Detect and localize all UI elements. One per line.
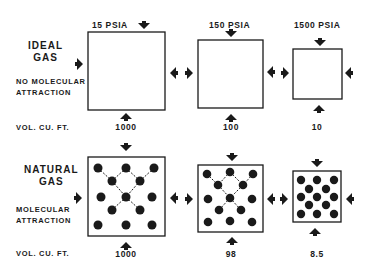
arrow-down-icon — [311, 159, 323, 167]
arrow-right-icon — [281, 67, 289, 79]
arrow-right-icon — [74, 192, 82, 204]
arrow-up-icon — [226, 237, 238, 245]
arrow-down-icon — [120, 143, 132, 151]
natural-box-1500psia — [280, 159, 354, 236]
gas-compression-diagram — [0, 0, 367, 278]
arrow-right-icon — [75, 58, 83, 70]
arrow-up-icon — [120, 113, 132, 121]
ideal-box-15psia — [75, 21, 178, 121]
ideal-box-150psia — [185, 29, 275, 122]
natural-box-150psia — [185, 153, 275, 245]
arrow-up-icon — [313, 105, 325, 113]
arrow-up-icon — [120, 242, 132, 250]
arrow-down-icon — [138, 21, 150, 29]
arrow-right-icon — [185, 67, 193, 79]
arrow-right-icon — [280, 193, 288, 205]
arrow-down-icon — [225, 29, 237, 37]
molecules — [297, 176, 338, 218]
arrow-down-icon — [314, 38, 326, 46]
arrow-left-icon — [170, 67, 178, 79]
arrow-right-icon — [185, 193, 193, 205]
arrow-up-icon — [309, 228, 321, 236]
arrow-left-icon — [345, 67, 353, 79]
ideal-box-1500psia — [281, 38, 353, 113]
arrow-left-icon — [267, 193, 275, 205]
arrow-down-icon — [226, 153, 238, 161]
arrow-up-icon — [225, 114, 237, 122]
arrow-left-icon — [346, 193, 354, 205]
natural-box-15psia — [74, 143, 178, 250]
molecules — [203, 168, 258, 227]
arrow-left-icon — [170, 192, 178, 204]
arrow-left-icon — [267, 66, 275, 78]
